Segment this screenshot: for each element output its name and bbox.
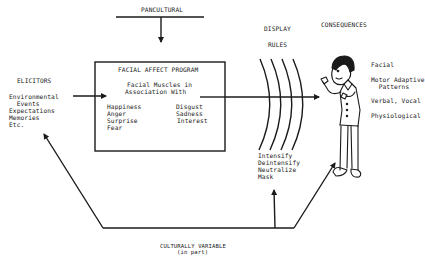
culturally-variable-label-line2: (in part) bbox=[177, 249, 208, 256]
program-title: FACIAL AFFECT PROGRAM bbox=[118, 66, 198, 73]
consequences-feedback-arrow bbox=[294, 163, 335, 228]
consequence-item: Facial bbox=[371, 61, 394, 68]
display-rules-feedback-arrow bbox=[274, 190, 275, 228]
consequences-title: CONSEQUENCES bbox=[321, 21, 367, 28]
display-rule-item: Mask bbox=[258, 173, 273, 180]
pancultural-label: PANCULTURAL bbox=[141, 6, 183, 13]
display-rule-arc-3 bbox=[281, 59, 292, 150]
elicitors-title: ELICITORS bbox=[17, 77, 51, 84]
display-rule-arc-2 bbox=[270, 59, 281, 150]
program-subtitle-line2: Association With bbox=[125, 88, 186, 95]
display-rules-title-line1: DISPLAY bbox=[264, 25, 291, 32]
consequence-item: Verbal, Vocal bbox=[371, 97, 421, 104]
elicitor-feedback-arrow bbox=[44, 134, 103, 228]
elicitor-item: Etc. bbox=[9, 121, 24, 128]
display-rules-title-line2: RULES bbox=[268, 41, 287, 48]
consequence-item: Patterns bbox=[371, 83, 409, 90]
display-rule-arc-4 bbox=[292, 59, 303, 150]
person-illustration bbox=[321, 56, 361, 177]
emotion-interest: Interest bbox=[177, 117, 208, 124]
emotion-fear: Fear bbox=[107, 124, 122, 131]
display-rule-arc-1 bbox=[259, 59, 270, 150]
consequence-item: Physiological bbox=[371, 112, 421, 119]
